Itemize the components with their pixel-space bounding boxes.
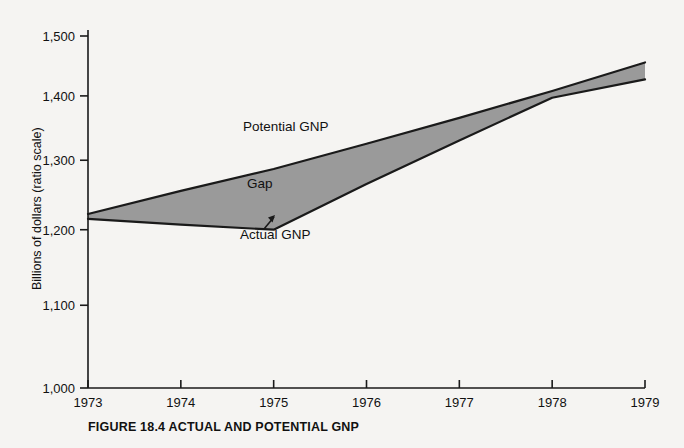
- y-axis-title: Billions of dollars (ratio scale): [30, 127, 44, 290]
- actual-gnp-label: Actual GNP: [240, 227, 311, 242]
- y-tick-label: 1,000: [42, 381, 75, 396]
- figure-caption: FIGURE 18.4 ACTUAL AND POTENTIAL GNP: [88, 420, 359, 434]
- x-tick-label: 1979: [631, 395, 660, 410]
- x-tick-label: 1978: [538, 395, 567, 410]
- y-tick-label: 1,500: [42, 29, 75, 44]
- y-tick-label: 1,300: [42, 153, 75, 168]
- x-tick-label: 1976: [352, 395, 381, 410]
- x-tick-label: 1977: [445, 395, 474, 410]
- y-tick-label: 1,200: [42, 223, 75, 238]
- x-tick-label: 1975: [259, 395, 288, 410]
- gap-label: Gap: [247, 176, 273, 191]
- gnp-area-chart: 1,0001,1001,2001,3001,4001,500 197319741…: [0, 0, 684, 448]
- y-tick-label: 1,400: [42, 89, 75, 104]
- figure-container: 1,0001,1001,2001,3001,4001,500 197319741…: [0, 0, 684, 448]
- x-tick-label: 1973: [74, 395, 103, 410]
- y-tick-label: 1,100: [42, 298, 75, 313]
- potential-gnp-label: Potential GNP: [243, 119, 329, 134]
- chart-background: [0, 0, 684, 448]
- x-tick-label: 1974: [166, 395, 195, 410]
